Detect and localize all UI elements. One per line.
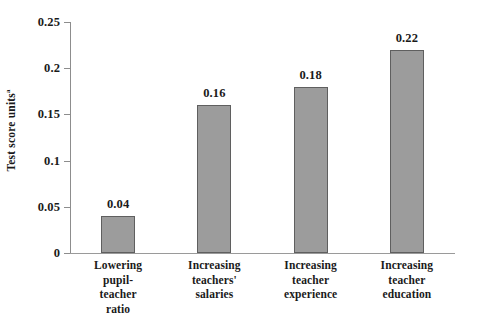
- y-axis-tick: [64, 114, 70, 115]
- y-axis-title-text: Test score units: [4, 93, 16, 172]
- category-label-line: teacher: [352, 273, 462, 288]
- category-label-line: pupil-: [63, 273, 173, 288]
- y-axis-tick-label: 0.15: [38, 107, 60, 122]
- x-axis-line: [70, 253, 455, 254]
- y-axis-tick: [64, 253, 70, 254]
- y-axis-title: Test score unitsa: [2, 30, 18, 230]
- bar-chart: Test score unitsa 00.050.10.150.20.25 0.…: [0, 0, 480, 330]
- y-axis-tick-label: 0.05: [38, 199, 60, 214]
- category-label-line: ratio: [63, 302, 173, 317]
- bar-value-label: 0.16: [203, 86, 225, 101]
- x-axis-category-label: Increasingteacherexperience: [256, 258, 366, 302]
- bar: [101, 216, 135, 253]
- bar: [294, 87, 328, 253]
- category-label-line: experience: [256, 287, 366, 302]
- category-label-line: teacher: [256, 273, 366, 288]
- y-axis-line: [70, 22, 71, 253]
- bar-value-label: 0.18: [299, 68, 321, 83]
- category-label-line: Increasing: [352, 258, 462, 273]
- category-label-line: teacher: [63, 287, 173, 302]
- y-axis-tick: [64, 161, 70, 162]
- x-axis-category-label: Increasingteachers'salaries: [159, 258, 269, 302]
- category-label-line: education: [352, 287, 462, 302]
- plot-area: 00.050.10.150.20.25 0.040.160.180.22 Low…: [70, 22, 455, 253]
- y-axis-tick: [64, 22, 70, 23]
- y-axis-tick-label: 0.25: [38, 15, 60, 30]
- y-axis-tick-label: 0: [54, 246, 60, 261]
- bar: [390, 50, 424, 253]
- bar-value-label: 0.22: [396, 31, 418, 46]
- y-axis-tick: [64, 68, 70, 69]
- x-axis-category-label: Loweringpupil-teacherratio: [63, 258, 173, 316]
- category-label-line: salaries: [159, 287, 269, 302]
- bar-value-label: 0.04: [107, 197, 129, 212]
- y-axis-tick: [64, 207, 70, 208]
- category-label-line: Lowering: [63, 258, 173, 273]
- category-label-line: Increasing: [159, 258, 269, 273]
- category-label-line: Increasing: [256, 258, 366, 273]
- y-axis-footnote-marker: a: [4, 89, 12, 93]
- y-axis-tick-label: 0.2: [44, 61, 60, 76]
- bar: [197, 105, 231, 253]
- y-axis-tick-label: 0.1: [44, 153, 60, 168]
- category-label-line: teachers': [159, 273, 269, 288]
- x-axis-category-label: Increasingteachereducation: [352, 258, 462, 302]
